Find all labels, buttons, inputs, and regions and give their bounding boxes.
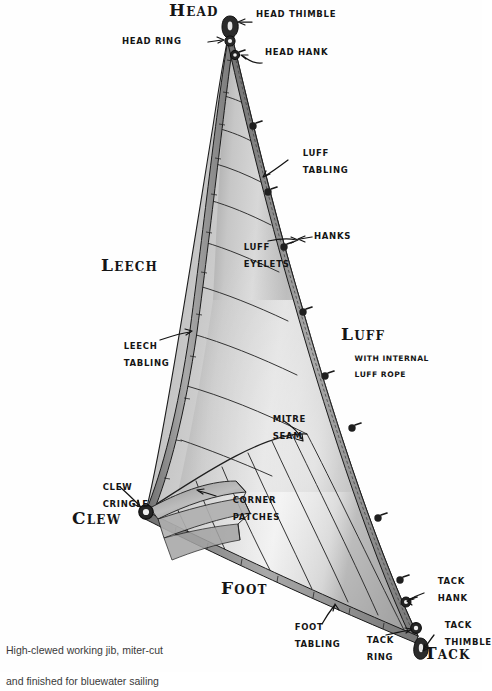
label-luff-eyelets: LUFF EYELETS xyxy=(229,234,289,278)
label-tack-ring: TACK RING xyxy=(352,627,394,671)
label-leech-tabling-line2: TABLING xyxy=(124,358,170,368)
label-clew-cringle-line1: CLEW xyxy=(103,482,133,492)
label-foot: Foot xyxy=(221,580,268,598)
label-luff-tabling-line2: TABLING xyxy=(303,165,349,175)
label-hanks: HANKS xyxy=(314,232,351,241)
label-leech: Leech xyxy=(101,257,158,275)
label-leech-tabling: LEECH TABLING xyxy=(109,333,169,377)
label-head-hank: HEAD HANK xyxy=(265,48,328,57)
label-foot-tabling: FOOT TABLING xyxy=(280,614,340,658)
label-tack-hank-line2: HANK xyxy=(438,593,468,603)
label-luff-note-line1: WITH INTERNAL xyxy=(355,354,429,363)
label-clew: Clew xyxy=(72,510,121,528)
figure-caption: High-clewed working jib, miter-cut and f… xyxy=(6,628,216,691)
label-luff-tabling: LUFF TABLING xyxy=(288,140,348,184)
label-tack-ring-line2: RING xyxy=(367,652,394,662)
label-foot-tabling-line2: TABLING xyxy=(295,639,341,649)
label-foot-tabling-line1: FOOT xyxy=(295,622,324,632)
figure-caption-line2: and finished for bluewater sailing xyxy=(6,674,216,689)
label-tack: Tack xyxy=(424,645,471,663)
label-luff-tabling-line1: LUFF xyxy=(303,148,329,158)
label-corner-patches-line1: CORNER xyxy=(233,495,277,505)
label-tack-ring-line1: TACK xyxy=(367,635,394,645)
label-mitre-seam-line1: MITRE xyxy=(273,414,306,424)
label-luff-note: WITH INTERNAL LUFF ROPE xyxy=(342,347,429,386)
label-mitre-seam-line2: SEAM xyxy=(273,431,303,441)
label-tack-hank: TACK HANK xyxy=(423,568,468,612)
label-corner-patches: CORNER PATCHES xyxy=(218,487,280,531)
label-luff-eyelets-line2: EYELETS xyxy=(244,259,290,269)
label-tack-hank-line1: TACK xyxy=(438,576,465,586)
label-luff: Luff xyxy=(341,326,385,344)
label-corner-patches-line2: PATCHES xyxy=(233,512,280,522)
label-head-thimble: HEAD THIMBLE xyxy=(256,10,336,19)
label-mitre-seam: MITRE SEAM xyxy=(258,406,306,450)
label-luff-note-line2: LUFF ROPE xyxy=(355,370,406,379)
label-head: Head xyxy=(169,2,219,20)
label-luff-eyelets-line1: LUFF xyxy=(244,242,270,252)
figure-caption-line1: High-clewed working jib, miter-cut xyxy=(6,643,216,658)
label-head-ring: HEAD RING xyxy=(122,37,182,46)
label-tack-thimble-line1: TACK xyxy=(445,620,472,630)
label-leech-tabling-line1: LEECH xyxy=(124,341,158,351)
